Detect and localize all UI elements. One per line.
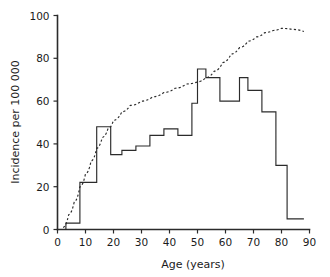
incidence-step-line xyxy=(66,69,304,230)
x-tick-label: 70 xyxy=(247,236,260,248)
series-group xyxy=(63,28,304,229)
y-tick-label: 80 xyxy=(36,52,49,64)
x-tick-label: 50 xyxy=(191,236,204,248)
y-axis-ticks: 020406080100 xyxy=(29,10,57,236)
x-tick-label: 60 xyxy=(219,236,232,248)
y-tick-label: 20 xyxy=(36,181,49,193)
y-tick-label: 40 xyxy=(36,138,49,150)
x-axis-title: Age (years) xyxy=(161,258,225,271)
x-tick-label: 40 xyxy=(163,236,176,248)
cumulative-dashed-line xyxy=(63,28,304,227)
x-tick-label: 80 xyxy=(275,236,288,248)
x-tick-label: 0 xyxy=(54,236,61,248)
x-tick-label: 20 xyxy=(107,236,120,248)
x-axis-ticks: 0102030405060708090 xyxy=(54,230,316,248)
y-tick-label: 100 xyxy=(29,10,49,22)
y-tick-label: 0 xyxy=(43,224,50,236)
axis-group xyxy=(58,16,310,230)
incidence-by-age-chart: 020406080100 0102030405060708090 Age (ye… xyxy=(0,0,330,277)
x-tick-label: 90 xyxy=(303,236,316,248)
y-tick-label: 60 xyxy=(36,95,49,107)
x-tick-label: 10 xyxy=(79,236,92,248)
x-tick-label: 30 xyxy=(135,236,148,248)
chart-container: 020406080100 0102030405060708090 Age (ye… xyxy=(0,0,330,277)
y-axis-title: Incidence per 100 000 xyxy=(9,60,22,184)
